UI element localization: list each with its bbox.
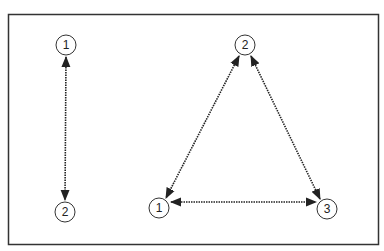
node-label-left-2: 2: [55, 202, 75, 222]
edge-1-2-bidirectional: [65, 57, 66, 200]
node-label-triangle-2: 2: [235, 35, 255, 55]
diagram-canvas: 1 2 2 1 3: [0, 0, 384, 251]
node-label-triangle-1: 1: [149, 198, 169, 218]
triangle-graph: [149, 35, 337, 219]
node-label-triangle-3: 3: [317, 199, 337, 219]
node-label-left-1: 1: [56, 35, 76, 55]
edge-2-1-bidirectional: [166, 56, 239, 198]
two-node-graph: [55, 35, 76, 222]
edge-2-3-bidirectional: [251, 56, 320, 199]
